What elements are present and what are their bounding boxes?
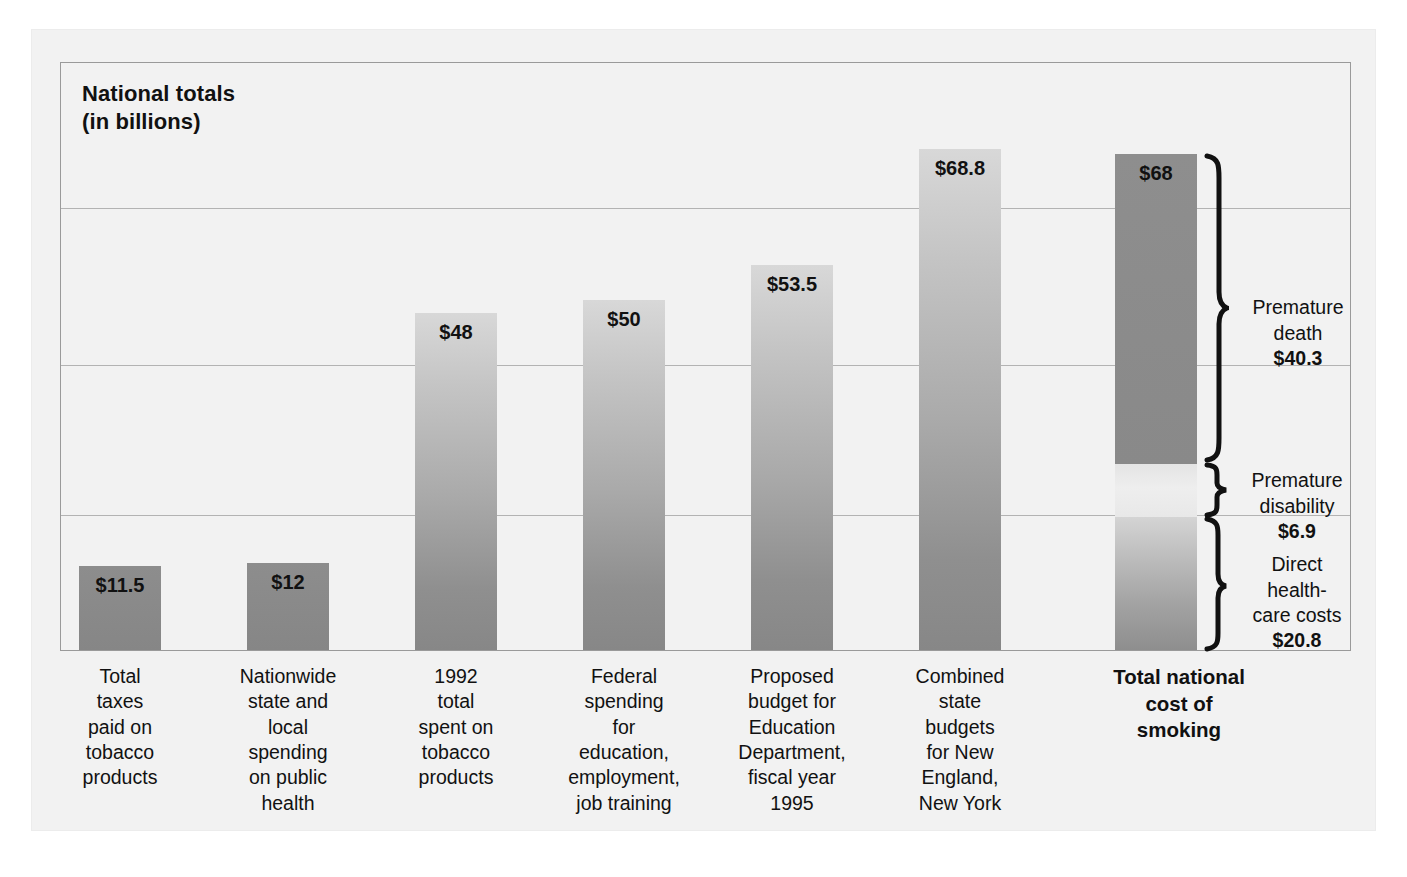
bar-0[interactable]: $11.5 xyxy=(79,566,161,650)
bar-4[interactable]: $53.5 xyxy=(751,265,833,650)
chart-title: National totals (in billions) xyxy=(82,80,235,135)
bar-group-4[interactable]: $53.5 xyxy=(751,150,833,650)
bar-group-3[interactable]: $50 xyxy=(583,150,665,650)
bar-group-2[interactable]: $48 xyxy=(415,150,497,650)
category-label-1: Nationwide state and local spending on p… xyxy=(213,664,363,816)
annotation-direct-healthcare: Direct health- care costs $20.8 xyxy=(1222,527,1372,679)
annotation-premature-disability-label: Premature disability xyxy=(1251,469,1342,516)
category-label-3: Federal spending for education, employme… xyxy=(545,664,703,816)
category-label-0: Total taxes paid on tobacco products xyxy=(55,664,185,791)
bar-group-5[interactable]: $68.8 xyxy=(919,150,1001,650)
segment-premature-death[interactable] xyxy=(1115,154,1197,464)
bar-group-0[interactable]: $11.5 xyxy=(79,150,161,650)
bar-value-0: $11.5 xyxy=(79,574,161,597)
annotation-premature-death-label: Premature death xyxy=(1252,296,1343,343)
bar-value-3: $50 xyxy=(583,308,665,331)
bar-group-1[interactable]: $12 xyxy=(247,150,329,650)
annotation-direct-healthcare-label: Direct health- care costs xyxy=(1253,553,1342,626)
category-label-4: Proposed budget for Education Department… xyxy=(712,664,872,816)
bar-value-5: $68.8 xyxy=(919,157,1001,180)
category-label-6: Total national cost of smoking xyxy=(1085,664,1273,744)
bar-value-1: $12 xyxy=(247,571,329,594)
bar-3[interactable]: $50 xyxy=(583,300,665,650)
bar-1[interactable]: $12 xyxy=(247,563,329,650)
page-root: National totals (in billions) $11.5 $12 … xyxy=(0,0,1407,877)
segment-premature-disability[interactable] xyxy=(1115,464,1197,517)
category-label-2: 1992 total spent on tobacco products xyxy=(391,664,521,791)
annotation-premature-death: Premature death $40.3 xyxy=(1228,270,1368,397)
bar-2[interactable]: $48 xyxy=(415,313,497,650)
bar-value-2: $48 xyxy=(415,321,497,344)
category-label-5: Combined state budgets for New England, … xyxy=(885,664,1035,816)
bar-value-4: $53.5 xyxy=(751,273,833,296)
segment-direct-healthcare[interactable] xyxy=(1115,517,1197,650)
bar-group-6-stacked[interactable]: $68 xyxy=(1115,150,1197,650)
brace-premature-death xyxy=(1203,152,1229,464)
bar-5[interactable]: $68.8 xyxy=(919,149,1001,650)
bar-value-6: $68 xyxy=(1115,162,1197,185)
bar-6[interactable]: $68 xyxy=(1115,154,1197,650)
annotation-direct-healthcare-value: $20.8 xyxy=(1222,628,1372,653)
annotation-premature-death-value: $40.3 xyxy=(1228,346,1368,371)
